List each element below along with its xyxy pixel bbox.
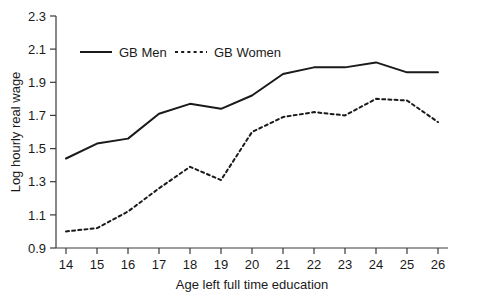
y-tick-label: 0.9 [28,241,46,256]
x-tick-label: 21 [276,257,290,272]
y-tick-label: 2.3 [28,9,46,24]
line-chart-svg: 0.9 1.1 1.3 1.5 1.7 1.9 2.1 2.3 [0,0,477,297]
x-tick-label: 25 [400,257,414,272]
legend-label-gb-men: GB Men [119,45,167,60]
y-tick-label: 1.7 [28,108,46,123]
legend-label-gb-women: GB Women [214,45,281,60]
x-tick-label: 23 [338,257,352,272]
x-tick-label: 24 [369,257,383,272]
x-tick-label: 19 [214,257,228,272]
x-tick-label: 14 [59,257,73,272]
x-axis-title: Age left full time education [176,277,328,292]
x-tick-label: 20 [245,257,259,272]
y-tick-label: 1.5 [28,141,46,156]
y-tick-label: 2.1 [28,42,46,57]
x-tick-label: 22 [307,257,321,272]
x-tick-label: 26 [431,257,445,272]
x-tick-label: 15 [90,257,104,272]
y-tick-label: 1.1 [28,208,46,223]
x-tick-label: 17 [152,257,166,272]
y-axis-title: Log hourly real wage [8,72,23,193]
y-tick-label: 1.3 [28,174,46,189]
chart-figure: 0.9 1.1 1.3 1.5 1.7 1.9 2.1 2.3 [0,0,477,297]
x-tick-label: 16 [121,257,135,272]
x-tick-label: 18 [183,257,197,272]
y-tick-label: 1.9 [28,75,46,90]
